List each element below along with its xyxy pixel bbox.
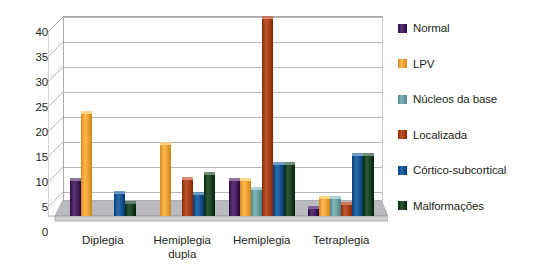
bar-group [302, 16, 382, 216]
legend-swatch-icon [398, 95, 407, 104]
bar-face [229, 181, 240, 216]
chart-side-wall [48, 16, 64, 216]
bar-face [251, 190, 262, 217]
bar [229, 181, 240, 216]
x-axis-label-line: dupla [153, 248, 211, 262]
legend-item[interactable]: Localizada [398, 129, 467, 141]
bar-face [70, 181, 81, 216]
bar-top [114, 191, 125, 194]
x-axis-label-line: Hemiplegia [153, 234, 211, 248]
bar-top [284, 162, 295, 165]
bar-face [341, 205, 352, 216]
x-axis-category-label: Hemiplegia [233, 234, 291, 248]
bar-top [341, 202, 352, 205]
y-axis-tick-label: 15 [36, 151, 48, 163]
bar-top [251, 187, 262, 190]
bar [114, 194, 125, 217]
bar-group [143, 16, 223, 216]
x-axis-category-label: Hemiplegiadupla [153, 234, 211, 261]
bar [160, 145, 171, 216]
x-axis-label-line: Hemiplegia [233, 234, 291, 248]
bar [204, 175, 215, 216]
bar-top [182, 177, 193, 180]
bar-top [352, 153, 363, 156]
bar-top [308, 206, 319, 209]
legend-label: LPV [413, 58, 434, 70]
bar-face [330, 199, 341, 216]
legend-item[interactable]: Malformações [398, 200, 484, 212]
side-wall-shape [48, 16, 64, 217]
bar-face [182, 180, 193, 216]
legend-swatch-icon [398, 24, 407, 33]
bar [352, 156, 363, 216]
legend-item[interactable]: Núcleos da base [398, 93, 497, 105]
bar-top [160, 142, 171, 145]
y-axis-tick-label: 10 [36, 176, 48, 188]
bar [125, 204, 136, 216]
bar-chart: 0510152025303540 DiplegiaHemiplegiadupla… [0, 0, 538, 279]
bar-face [125, 204, 136, 216]
x-axis-category-label: Diplegia [82, 234, 124, 248]
legend-item[interactable]: Córtico-subcortical [398, 164, 506, 176]
bar-top [363, 153, 374, 156]
y-axis-tick-label: 40 [36, 26, 48, 38]
bar-group [222, 16, 302, 216]
x-axis-label-line: Tetraplegia [313, 234, 369, 248]
y-axis-tick-label: 25 [36, 101, 48, 113]
legend-label: Malformações [413, 200, 484, 212]
bar [319, 199, 330, 217]
legend-swatch-icon [398, 201, 407, 210]
bar-top [319, 196, 330, 199]
bar-face [308, 209, 319, 217]
bar-face [262, 19, 273, 217]
chart-legend: NormalLPVNúcleos da baseLocalizadaCórtic… [398, 22, 538, 232]
bar [262, 19, 273, 217]
bar [273, 165, 284, 217]
bar-group [63, 16, 143, 216]
bar-face [114, 194, 125, 217]
bar-face [284, 165, 295, 217]
legend-swatch-icon [398, 59, 407, 68]
legend-label: Localizada [413, 129, 467, 141]
bar-top [70, 178, 81, 181]
bar-top [273, 162, 284, 165]
bar-top [262, 16, 273, 19]
y-axis: 0510152025303540 [18, 16, 48, 216]
bar [341, 205, 352, 216]
legend-item[interactable]: LPV [398, 58, 434, 70]
bar-face [363, 156, 374, 216]
bar-top [240, 178, 251, 181]
legend-label: Córtico-subcortical [413, 164, 506, 176]
bar [81, 114, 92, 217]
bar-face [319, 199, 330, 217]
x-axis: DiplegiaHemiplegiaduplaHemiplegiaTetrapl… [48, 234, 388, 274]
bar [70, 181, 81, 216]
bar [182, 180, 193, 216]
bar-face [240, 181, 251, 216]
bar-top [204, 172, 215, 175]
bar-top [125, 201, 136, 204]
bar [308, 209, 319, 217]
bar-face [193, 195, 204, 216]
bar [284, 165, 295, 217]
y-axis-tick-label: 35 [36, 51, 48, 63]
legend-label: Núcleos da base [413, 93, 497, 105]
y-axis-tick-label: 20 [36, 126, 48, 138]
bar [251, 190, 262, 217]
x-axis-category-label: Tetraplegia [313, 234, 369, 248]
bar-face [81, 114, 92, 217]
legend-swatch-icon [398, 166, 407, 175]
bar [363, 156, 374, 216]
bar-top [229, 178, 240, 181]
legend-item[interactable]: Normal [398, 22, 449, 34]
bar-face [204, 175, 215, 216]
bar-face [273, 165, 284, 217]
bar [193, 195, 204, 216]
legend-label: Normal [413, 22, 449, 34]
bar [330, 199, 341, 216]
bar-face [352, 156, 363, 216]
bars-layer [63, 16, 381, 216]
bar-top [330, 196, 341, 199]
bar-top [81, 111, 92, 114]
y-axis-tick-label: 30 [36, 76, 48, 88]
